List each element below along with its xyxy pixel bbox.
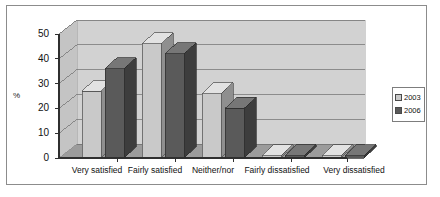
y-axis-label: % xyxy=(13,91,20,100)
legend-label-2006: 2006 xyxy=(404,107,421,115)
x-tick-label-very-dissatisfied: Very dissatisfied xyxy=(313,165,395,175)
legend-label-2003: 2003 xyxy=(404,94,421,102)
y-tick-label-20: 20 xyxy=(25,103,49,113)
y-tick-label-30: 30 xyxy=(25,79,49,89)
legend-item-2006: 2006 xyxy=(395,104,422,117)
bar-2006-fairly-satisfied xyxy=(165,43,196,158)
x-tick-marks xyxy=(117,158,347,162)
legend-swatch-2006-icon xyxy=(395,107,402,114)
bar-group-fairly-satisfied xyxy=(142,33,196,158)
chart-legend: 2003 2006 xyxy=(392,87,425,122)
legend-swatch-2003-icon xyxy=(395,94,402,101)
chart-figure: % 50 40 30 20 10 0 Very satisfied Fairly… xyxy=(6,5,427,185)
legend-item-2003: 2003 xyxy=(395,91,422,104)
y-tick-marks xyxy=(55,34,59,158)
bar-2006-neither-nor xyxy=(225,97,256,158)
y-tick-label-0: 0 xyxy=(25,153,49,163)
y-tick-label-10: 10 xyxy=(25,128,49,138)
bar-2006-very-satisfied xyxy=(105,58,136,158)
y-tick-label-40: 40 xyxy=(25,54,49,64)
x-tick-label-fairly-dissatisfied: Fairly dissatisfied xyxy=(235,165,319,175)
y-tick-label-50: 50 xyxy=(25,29,49,39)
bar-chart-plot xyxy=(7,6,428,186)
